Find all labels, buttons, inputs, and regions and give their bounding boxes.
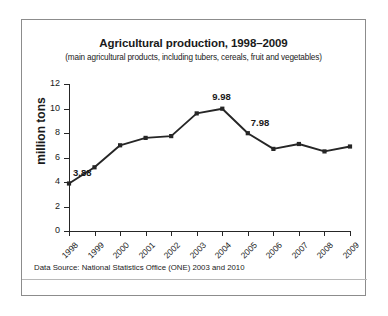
data-point-2004 xyxy=(220,107,224,111)
data-point-1998 xyxy=(67,181,71,185)
source-divider xyxy=(22,279,367,280)
data-point-1999 xyxy=(92,165,96,169)
data-point-2002 xyxy=(169,134,173,138)
data-label-1998: 3.88 xyxy=(73,167,92,178)
data-label-2005: 7.98 xyxy=(251,117,270,128)
data-point-2009 xyxy=(348,144,352,148)
data-point-2003 xyxy=(195,111,199,115)
data-line-series xyxy=(22,20,367,297)
data-point-2008 xyxy=(322,149,326,153)
data-point-2000 xyxy=(118,143,122,147)
data-point-2007 xyxy=(297,142,301,146)
data-point-2006 xyxy=(271,147,275,151)
chart-card: Agricultural production, 1998–2009 (main… xyxy=(21,19,366,296)
data-point-2005 xyxy=(246,131,250,135)
source-note: Data Source: National Statistics Office … xyxy=(34,263,244,272)
data-label-2004: 9.98 xyxy=(212,91,231,102)
data-point-2001 xyxy=(144,136,148,140)
